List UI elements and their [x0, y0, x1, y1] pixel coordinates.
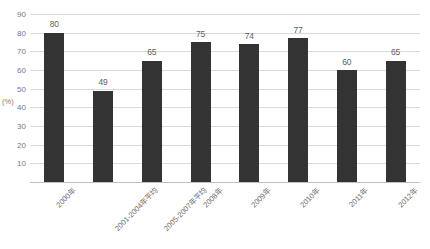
bar[interactable] [386, 61, 406, 182]
bar-value-label: 75 [196, 30, 205, 39]
y-tick-30: 30 [17, 123, 26, 131]
x-category-label: 2011年 [348, 187, 370, 209]
bar-slot: 65 [128, 14, 177, 182]
y-axis-unit-label: (%) [2, 97, 14, 106]
x-category-label: 2009年 [250, 187, 273, 210]
bar-slot: 75 [176, 14, 225, 182]
y-axis: 90 80 70 60 50 40 30 20 10 (%) [0, 0, 30, 249]
x-label-slot: 2001-2004年平均 [79, 183, 128, 249]
x-label-slot: 2010年 [274, 183, 323, 249]
bar[interactable] [44, 33, 64, 182]
bar-slot: 65 [371, 14, 420, 182]
x-label-slot: 2008年 [176, 183, 225, 249]
bar-value-label: 77 [293, 26, 302, 35]
x-category-label: 2000年 [55, 187, 78, 210]
bar[interactable] [142, 61, 162, 182]
bar-chart: 90 80 70 60 50 40 30 20 10 (%) 80 49 [0, 0, 430, 249]
bar-slot: 80 [30, 14, 79, 182]
bar[interactable] [288, 38, 308, 182]
bar-value-label: 80 [50, 20, 59, 29]
x-axis: 2000年 2001-2004年平均 2005-2007年平均 2008年 20… [30, 183, 420, 249]
x-label-slot: 2012年 [371, 183, 420, 249]
bar-value-label: 65 [147, 48, 156, 57]
x-label-slot: 2009年 [225, 183, 274, 249]
y-tick-10: 10 [17, 160, 26, 168]
bar[interactable] [191, 42, 211, 182]
x-category-label: 2010年 [299, 187, 322, 210]
bar-value-label: 60 [342, 58, 351, 67]
x-category-label: 2008年 [202, 187, 225, 210]
y-tick-50: 50 [17, 86, 26, 94]
x-label-slot: 2011年 [323, 183, 372, 249]
bar-slot: 77 [274, 14, 323, 182]
y-tick-90: 90 [17, 11, 26, 19]
y-tick-40: 40 [17, 104, 26, 112]
bar-slot: 49 [79, 14, 128, 182]
x-label-slot: 2005-2007年平均 [128, 183, 177, 249]
bar[interactable] [239, 44, 259, 182]
bar-value-label: 74 [245, 32, 254, 41]
bar-value-label: 65 [391, 48, 400, 57]
bar-slot: 60 [323, 14, 372, 182]
y-tick-80: 80 [17, 30, 26, 38]
x-label-slot: 2000年 [30, 183, 79, 249]
y-tick-70: 70 [17, 48, 26, 56]
bar-slot: 74 [225, 14, 274, 182]
x-category-label: 2012年 [397, 187, 420, 210]
y-tick-60: 60 [17, 67, 26, 75]
bar[interactable] [93, 91, 113, 182]
bar-series: 80 49 65 75 74 77 60 65 [30, 14, 420, 182]
y-tick-20: 20 [17, 142, 26, 150]
bar-value-label: 49 [98, 78, 107, 87]
bar[interactable] [337, 70, 357, 182]
